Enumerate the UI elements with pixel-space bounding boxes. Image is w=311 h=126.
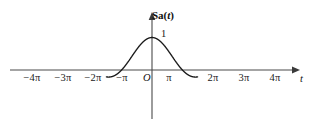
x-tick-label: 4π	[270, 72, 281, 83]
y-axis-label-text: Sa(	[152, 9, 167, 21]
origin-label: O	[143, 72, 151, 83]
sinc-function-figure: Sa(t) t O 1 −4π−3π−2π−ππ2π3π4π	[0, 0, 311, 126]
x-tick-label: −π	[116, 72, 128, 83]
x-tick-label: 3π	[239, 72, 250, 83]
x-tick-label: π	[166, 72, 172, 83]
x-tick-label: 2π	[208, 72, 219, 83]
x-tick-label: −3π	[54, 72, 71, 83]
y-axis	[149, 12, 156, 119]
peak-value-label: 1	[161, 28, 166, 39]
x-tick-label: −2π	[84, 72, 101, 83]
x-axis-arrowhead	[292, 67, 300, 74]
x-tick-label: −4π	[23, 72, 40, 83]
y-axis-label-close-paren: )	[170, 9, 174, 21]
x-axis-label: t	[300, 73, 303, 84]
y-axis-label: Sa(t)	[152, 9, 174, 21]
